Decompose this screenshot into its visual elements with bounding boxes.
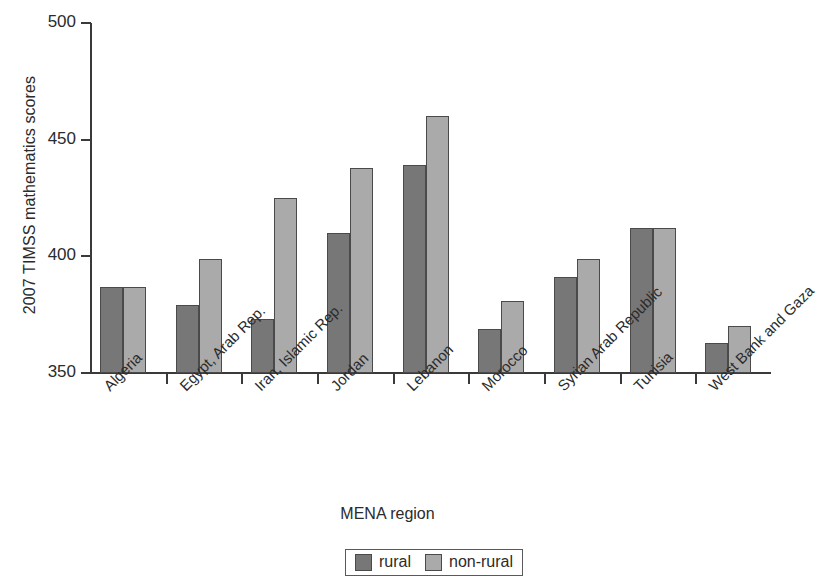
bar-non-rural <box>653 228 676 373</box>
non-rural-swatch <box>425 554 442 571</box>
bars-layer <box>90 23 771 373</box>
bar-rural <box>705 343 728 373</box>
bar-rural <box>478 329 501 373</box>
legend-label: non-rural <box>449 553 513 571</box>
bar-non-rural <box>274 198 297 373</box>
x-axis-title: MENA region <box>0 505 775 523</box>
x-axis-tick <box>166 374 168 384</box>
bar-non-rural <box>123 287 146 373</box>
y-axis-tick-label: 450 <box>26 129 76 149</box>
bar-rural <box>100 287 123 373</box>
bar-rural <box>176 305 199 373</box>
x-axis-tick <box>544 374 546 384</box>
legend-item: rural <box>355 553 411 571</box>
bar-non-rural <box>728 326 751 373</box>
chart-legend: ruralnon-rural <box>345 549 523 576</box>
bar-non-rural <box>199 259 222 373</box>
legend-label: rural <box>379 553 411 571</box>
bar-rural <box>630 228 653 373</box>
bar-rural <box>327 233 350 373</box>
legend-item: non-rural <box>425 553 513 571</box>
y-axis-tick-label: 500 <box>26 12 76 32</box>
y-axis-tick-label: 400 <box>26 245 76 265</box>
y-axis-title: 2007 TIMSS mathematics scores <box>21 35 39 355</box>
bar-non-rural <box>577 259 600 373</box>
bar-rural <box>554 277 577 373</box>
bar-non-rural <box>501 301 524 373</box>
x-axis-tick <box>317 374 319 384</box>
bar-non-rural <box>426 116 449 373</box>
bar-non-rural <box>350 168 373 373</box>
bar-rural <box>251 319 274 373</box>
x-axis-tick <box>241 374 243 384</box>
x-axis-tick <box>468 374 470 384</box>
y-axis-tick-label: 350 <box>26 362 76 382</box>
x-axis-tick <box>620 374 622 384</box>
rural-swatch <box>355 554 372 571</box>
x-axis-tick <box>695 374 697 384</box>
bar-rural <box>403 165 426 373</box>
x-axis-tick <box>393 374 395 384</box>
